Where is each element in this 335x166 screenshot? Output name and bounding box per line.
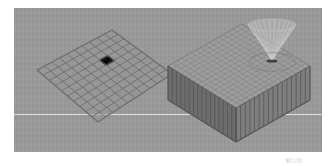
corner-artifact (286, 158, 302, 163)
flat-grid-object (14, 8, 322, 152)
figure-root: 3D mesh comparison render (0, 0, 335, 166)
funnel-base-puncture (267, 59, 278, 62)
render-viewport (14, 8, 322, 152)
